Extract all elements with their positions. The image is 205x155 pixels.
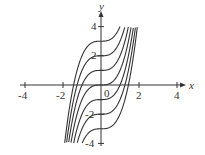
y-tick-neg4: -4 (85, 137, 95, 149)
cubic-family-chart: x y 0 -4 -2 2 4 4 2 -2 -4 (0, 0, 205, 155)
x-tick-4: 4 (174, 89, 180, 101)
x-tick-neg2: -2 (56, 89, 65, 101)
y-tick-4: 4 (91, 20, 97, 32)
y-axis (99, 11, 104, 146)
y-axis-label: y (98, 0, 104, 12)
x-tick-neg4: -4 (18, 89, 28, 101)
y-tick-neg2: -2 (85, 108, 94, 120)
y-tick-2: 2 (91, 49, 97, 61)
origin-label: 0 (104, 87, 110, 99)
x-tick-2: 2 (136, 89, 142, 101)
x-axis-label: x (188, 79, 194, 91)
